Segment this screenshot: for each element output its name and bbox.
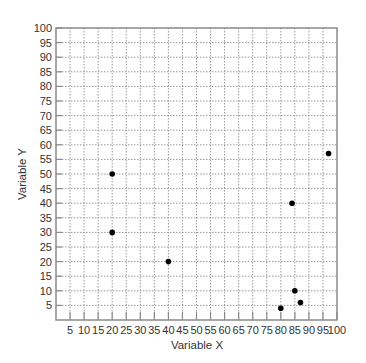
y-tick-label: 30 [40, 226, 52, 238]
y-tick-label: 80 [40, 80, 52, 92]
y-tick-label: 75 [40, 95, 52, 107]
data-point [289, 200, 295, 206]
x-tick-label: 60 [218, 324, 230, 336]
x-tick-label: 40 [162, 324, 174, 336]
y-tick-label: 65 [40, 124, 52, 136]
y-tick-label: 85 [40, 66, 52, 78]
y-tick-label: 95 [40, 37, 52, 49]
x-tick-labels: 5101520253035404550556065707580859095100 [67, 324, 346, 336]
x-tick-label: 90 [303, 324, 315, 336]
x-tick-label: 85 [289, 324, 301, 336]
x-tick-label: 100 [328, 324, 346, 336]
data-point [109, 230, 115, 236]
y-tick-label: 50 [40, 168, 52, 180]
x-tick-label: 20 [106, 324, 118, 336]
scatter-chart: 5101520253035404550556065707580859095100… [0, 0, 366, 363]
y-tick-labels: 5101520253035404550556065707580859095100 [34, 22, 52, 311]
grid-lines [56, 28, 337, 320]
x-tick-label: 15 [92, 324, 104, 336]
x-tick-label: 75 [261, 324, 273, 336]
y-tick-label: 100 [34, 22, 52, 34]
y-tick-label: 25 [40, 241, 52, 253]
x-tick-label: 80 [275, 324, 287, 336]
y-tick-label: 60 [40, 139, 52, 151]
x-tick-label: 35 [148, 324, 160, 336]
y-tick-label: 15 [40, 270, 52, 282]
x-tick-label: 55 [204, 324, 216, 336]
data-point [166, 259, 172, 265]
data-point [278, 306, 284, 312]
x-tick-label: 50 [190, 324, 202, 336]
y-tick-label: 55 [40, 153, 52, 165]
y-tick-label: 5 [46, 299, 52, 311]
x-tick-label: 45 [176, 324, 188, 336]
data-point [292, 288, 298, 294]
data-point [326, 151, 332, 157]
y-tick-label: 90 [40, 51, 52, 63]
y-tick-label: 35 [40, 212, 52, 224]
y-axis-title: Variable Y [16, 148, 28, 200]
x-tick-label: 10 [78, 324, 90, 336]
data-point [298, 300, 304, 306]
y-tick-label: 10 [40, 285, 52, 297]
y-tick-label: 70 [40, 110, 52, 122]
x-tick-label: 65 [233, 324, 245, 336]
data-point [109, 171, 115, 177]
y-tick-label: 40 [40, 197, 52, 209]
x-tick-label: 70 [247, 324, 259, 336]
x-tick-label: 25 [120, 324, 132, 336]
x-tick-label: 5 [67, 324, 73, 336]
x-tick-label: 30 [134, 324, 146, 336]
x-axis-title: Variable X [171, 339, 224, 351]
y-tick-label: 20 [40, 256, 52, 268]
y-tick-label: 45 [40, 183, 52, 195]
data-points [109, 151, 331, 311]
